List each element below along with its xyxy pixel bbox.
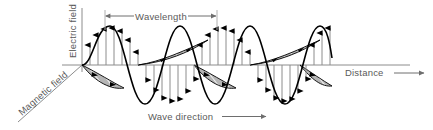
magnetic-field-lobes: [82, 40, 332, 88]
distance-annotation: Distance: [345, 67, 424, 78]
wavelength-label: Wavelength: [135, 11, 187, 22]
wavelength-annotation: Wavelength: [105, 10, 217, 30]
electric-field-label: Electric field: [67, 4, 78, 58]
wave-direction-label: Wave direction: [148, 111, 213, 122]
electric-field-label-group: Electric field: [67, 4, 78, 58]
em-wave-figure: Wavelength Distance Wave direction Elect…: [0, 0, 433, 130]
em-wave-diagram: Wavelength Distance Wave direction Elect…: [0, 0, 433, 130]
magnetic-field-label-group: Magnetic field: [16, 69, 70, 118]
distance-label: Distance: [345, 67, 384, 78]
magnetic-field-label: Magnetic field: [16, 69, 70, 118]
wave-direction-annotation: Wave direction: [148, 111, 266, 122]
